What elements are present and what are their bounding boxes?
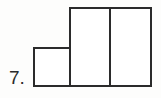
bar-rectangle-tall-right [109,7,152,87]
problem-number-label: 7. [9,68,25,87]
bar-rectangle-tall-left [69,7,111,87]
figure-container: 7. [0,0,161,98]
bar-rectangle-short [33,47,71,87]
